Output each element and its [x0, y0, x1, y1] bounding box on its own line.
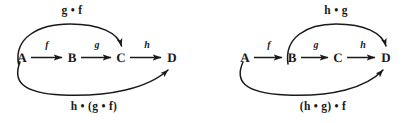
arrow-label-f-left: f — [45, 40, 48, 50]
label-h-compose-gf: h • (g • f) — [71, 101, 118, 113]
commutative-diagram-left: A B C D f g h g • f h • (g • f) — [0, 0, 207, 123]
commutative-diagram-right: A B C D f g h h • g (h • g) • f — [208, 0, 415, 123]
node-a-right: A — [240, 51, 249, 64]
node-b-right: B — [288, 51, 297, 64]
label-h-compose-g: h • g — [324, 5, 347, 17]
figure-canvas: A B C D f g h g • f h • (g • f) — [0, 0, 415, 123]
node-b-left: B — [68, 51, 77, 64]
arrow-label-g-right: g — [314, 40, 319, 50]
node-d-left: D — [167, 51, 176, 64]
arrow-label-f-right: f — [267, 40, 270, 50]
label-g-compose-f: g • f — [62, 5, 83, 17]
node-d-right: D — [381, 51, 390, 64]
arrow-label-h-right: h — [360, 40, 366, 50]
arc-hg-compose-f-right — [240, 62, 383, 95]
label-hg-compose-f: (h • g) • f — [300, 101, 347, 113]
arrow-label-h-left: h — [144, 40, 150, 50]
arc-h-compose-gf-left — [18, 62, 168, 95]
node-c-left: C — [116, 51, 125, 64]
node-c-right: C — [333, 51, 342, 64]
arrow-label-g-left: g — [95, 40, 100, 50]
node-a-left: A — [17, 51, 26, 64]
